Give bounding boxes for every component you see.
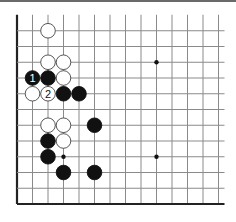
move-number-label: 2 — [45, 88, 51, 100]
black-stone — [72, 86, 87, 101]
white-stone — [56, 71, 71, 86]
star-point-icon — [154, 60, 158, 64]
go-board: 12 — [0, 0, 236, 222]
black-stone — [41, 71, 56, 86]
white-stone: 2 — [41, 86, 56, 101]
black-stone — [41, 149, 56, 164]
black-stone — [87, 165, 102, 180]
white-stone — [56, 55, 71, 70]
black-stone: 1 — [25, 71, 40, 86]
black-stone — [87, 118, 102, 133]
black-stone — [41, 134, 56, 149]
white-stone — [56, 134, 71, 149]
black-stone — [56, 86, 71, 101]
white-stone — [41, 23, 56, 38]
move-number-label: 1 — [29, 72, 35, 84]
white-stone — [56, 118, 71, 133]
star-point-icon — [154, 155, 158, 159]
star-point-icon — [61, 155, 65, 159]
white-stone — [25, 86, 40, 101]
white-stone — [41, 118, 56, 133]
board-grid — [17, 15, 225, 204]
white-stone — [41, 55, 56, 70]
black-stone — [56, 165, 71, 180]
